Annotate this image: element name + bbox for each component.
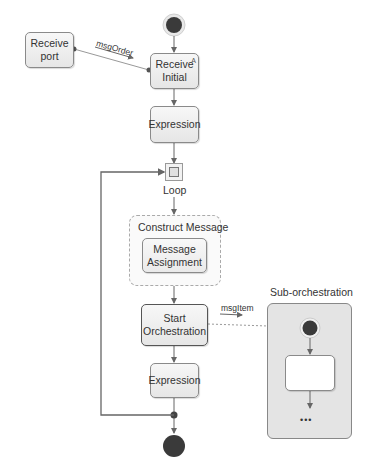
loop-label: Loop [163, 184, 186, 196]
end-node-icon [163, 435, 185, 457]
sub-orchestration-container[interactable]: ••• [267, 303, 352, 439]
message-assignment-node[interactable]: Message Assignment [142, 238, 207, 273]
expression-node-1[interactable]: Expression [150, 106, 199, 143]
start-orchestration-node[interactable]: Start Orchestration [141, 304, 208, 346]
receive-port-label-2: port [40, 50, 58, 63]
start-orchestration-label-1: Start [163, 312, 185, 325]
construct-message-label: Construct Message [138, 221, 228, 233]
loop-icon[interactable] [165, 163, 183, 181]
message-assignment-label-2: Assignment [147, 256, 202, 269]
start-node-icon [166, 17, 182, 33]
expression-node-2[interactable]: Expression [150, 363, 199, 398]
sub-orchestration-title: Sub-orchestration [270, 286, 353, 298]
receive-initial-label-2: Initial [162, 71, 187, 84]
msg-item-label: msgItem [221, 303, 254, 313]
orchestration-diagram: Receive port msgOrder Receive Initial A … [0, 0, 371, 469]
activate-marker-icon: A [191, 54, 196, 67]
sub-orchestration-inner-node[interactable] [285, 355, 335, 391]
sub-orchestration-ellipsis: ••• [300, 415, 312, 425]
expression-1-label: Expression [149, 118, 201, 131]
start-orchestration-label-2: Orchestration [143, 325, 206, 338]
receive-port-node[interactable]: Receive port [25, 32, 74, 68]
receive-initial-node[interactable]: Receive Initial A [150, 53, 199, 89]
message-assignment-label-1: Message [153, 243, 196, 256]
expression-2-label: Expression [149, 374, 201, 387]
receive-initial-label-1: Receive [156, 58, 194, 71]
receive-port-label-1: Receive [31, 37, 69, 50]
